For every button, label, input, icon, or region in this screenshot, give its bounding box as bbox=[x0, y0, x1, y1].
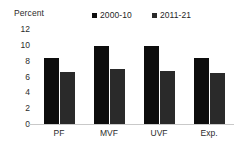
bar-chart: Percent 2000-10 2011-21 121086420 PFMVFU… bbox=[0, 0, 240, 146]
bar-mvf-series-2[interactable] bbox=[110, 69, 125, 124]
bar-uvf-series-2[interactable] bbox=[160, 71, 175, 124]
legend-swatch-icon-series-1 bbox=[92, 13, 97, 18]
plot-area bbox=[34, 29, 234, 124]
legend-item-series-2[interactable]: 2011-21 bbox=[152, 10, 191, 20]
legend-label-series-1: 2000-10 bbox=[100, 10, 132, 20]
bar-group bbox=[144, 29, 175, 124]
y-axis-tick-label: 12 bbox=[4, 24, 30, 34]
legend-item-series-1[interactable]: 2000-10 bbox=[92, 10, 132, 20]
bar-exp-series-2[interactable] bbox=[210, 73, 225, 124]
x-axis-tick-labels: PFMVFUVFExp. bbox=[34, 128, 234, 144]
bar-pf-series-2[interactable] bbox=[60, 72, 75, 124]
y-axis-tick-label: 6 bbox=[4, 72, 30, 82]
legend-label-series-2: 2011-21 bbox=[160, 10, 191, 20]
bar-group bbox=[194, 29, 225, 124]
bar-group bbox=[94, 29, 125, 124]
bar-group bbox=[44, 29, 75, 124]
bar-exp-series-1[interactable] bbox=[194, 58, 209, 125]
bar-pf-series-1[interactable] bbox=[44, 58, 59, 124]
x-axis-tick-label: MVF bbox=[100, 128, 118, 138]
x-axis-tick-label: UVF bbox=[151, 128, 168, 138]
y-axis-tick-label: 4 bbox=[4, 87, 30, 97]
y-axis-tick-labels: 121086420 bbox=[0, 29, 30, 124]
x-axis-tick-label: PF bbox=[54, 128, 65, 138]
legend-swatch-icon-series-2 bbox=[152, 13, 157, 18]
y-axis-tick-label: 2 bbox=[4, 103, 30, 113]
y-axis-tick-label: 0 bbox=[4, 119, 30, 129]
y-axis-tick-label: 10 bbox=[4, 40, 30, 50]
y-axis-tick-label: 8 bbox=[4, 56, 30, 66]
x-axis-tick-label: Exp. bbox=[200, 128, 217, 138]
chart-legend: 2000-10 2011-21 bbox=[92, 10, 191, 20]
bar-mvf-series-1[interactable] bbox=[94, 46, 109, 124]
y-axis-caption: Percent bbox=[14, 8, 44, 18]
bar-uvf-series-1[interactable] bbox=[144, 46, 159, 124]
x-axis-line bbox=[28, 124, 234, 125]
